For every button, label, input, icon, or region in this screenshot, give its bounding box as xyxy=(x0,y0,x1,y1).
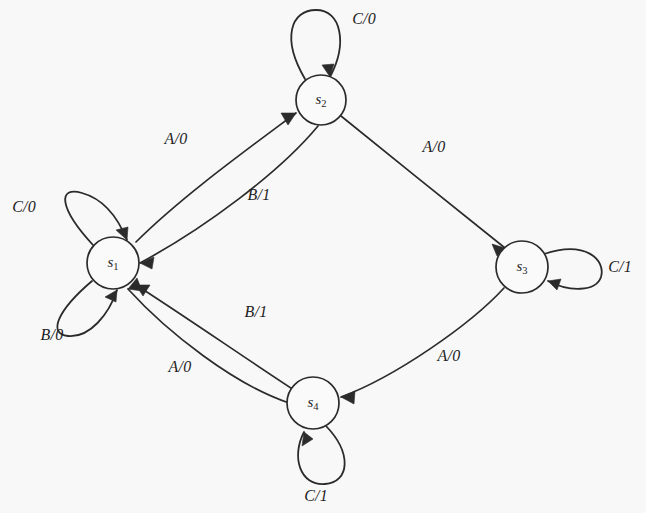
edge-label-s1-to-s2: A/0 xyxy=(164,130,188,147)
edge-label-s2-to-s1: B/1 xyxy=(248,186,271,203)
self-loop-s3-c1 xyxy=(544,249,602,290)
state-node-s3[interactable]: s3 xyxy=(496,241,548,293)
edge-s3-to-s4 xyxy=(341,288,504,404)
self-loop-label-s1-c0: C/0 xyxy=(12,198,36,215)
state-machine-svg: s1 s2 s3 s4 A/0 B/1 A/0 A/0 B/1 A/0 C/0 … xyxy=(0,0,646,513)
self-loop-s4-c1 xyxy=(298,426,345,484)
edge-s4-to-s1-b-path xyxy=(136,285,294,390)
self-loop-s1-b0-arrowhead xyxy=(105,290,117,302)
edge-s3-to-s4-arrowhead xyxy=(341,391,355,404)
edge-s2-to-s1 xyxy=(140,126,318,269)
self-loop-label-s4-c1: C/1 xyxy=(304,487,328,504)
self-loop-s4-c1-arrowhead xyxy=(302,432,313,446)
self-loop-s2-c0 xyxy=(291,10,340,79)
edge-s4-to-s1-a xyxy=(128,278,289,403)
self-loop-label-s3-c1: C/1 xyxy=(608,258,632,275)
state-node-s4[interactable]: s4 xyxy=(287,377,339,429)
self-loop-label-s2-c0: C/0 xyxy=(352,10,376,27)
edge-s1-to-s2 xyxy=(136,113,296,242)
state-diagram-canvas: s1 s2 s3 s4 A/0 B/1 A/0 A/0 B/1 A/0 C/0 … xyxy=(0,0,646,513)
edge-label-s4-to-s1-a: A/0 xyxy=(168,358,192,375)
edge-label-s4-to-s1-b: B/1 xyxy=(245,303,268,320)
edge-s1-to-s2-path xyxy=(136,113,296,242)
self-loop-s3-c1-arrowhead xyxy=(548,279,561,290)
edge-s2-to-s3-path xyxy=(341,116,505,248)
state-node-s2[interactable]: s2 xyxy=(296,75,346,125)
edge-label-s2-to-s3: A/0 xyxy=(422,138,446,155)
edge-label-s3-to-s4: A/0 xyxy=(437,347,461,364)
edge-s4-to-s1-b xyxy=(136,285,294,390)
state-node-s1[interactable]: s1 xyxy=(87,237,139,289)
self-loop-label-s1-b0: B/0 xyxy=(41,326,64,343)
edge-s3-to-s4-path xyxy=(341,288,504,397)
